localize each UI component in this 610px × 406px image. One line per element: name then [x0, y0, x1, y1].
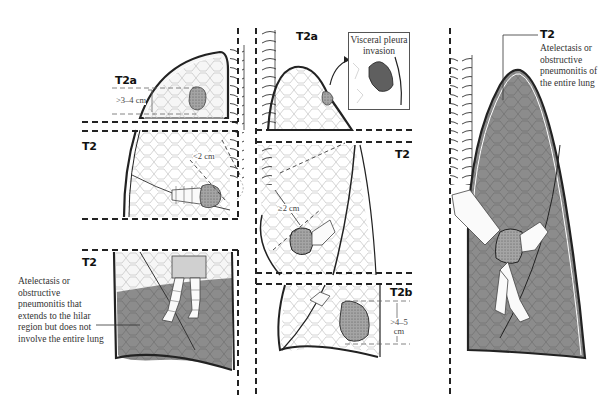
- staging-diagram: [0, 0, 610, 406]
- measurement-left-top: >3–4 cm: [116, 96, 146, 105]
- measurement-left-middle: <2 cm: [193, 152, 215, 161]
- stage-label-left-top: T2a: [115, 74, 137, 87]
- stage-label-center-top: T2a: [296, 30, 318, 43]
- measurement-unit: cm: [394, 326, 404, 336]
- trachea-segment: [450, 55, 472, 185]
- center-middle-lung: [258, 143, 376, 275]
- left-bottom-lung: [96, 252, 234, 370]
- left-middle-lung: [124, 130, 244, 217]
- note-left-bottom: Atelectasis or obstructive pneumonitis t…: [18, 276, 108, 345]
- trachea-segment: [230, 45, 244, 130]
- note-right: Atelectasis or obstructive pneumonitis o…: [540, 43, 610, 89]
- measurement-center-middle: ≥2 cm: [278, 204, 299, 213]
- measurement-center-bottom: >4–5 cm: [388, 318, 410, 336]
- stage-label-center-middle: T2: [395, 148, 410, 161]
- stage-label-center-bottom: T2b: [390, 286, 412, 299]
- left-lung-panel: [96, 45, 244, 370]
- stage-label-left-bottom: T2: [82, 256, 97, 269]
- pleura-invasion-detail-icon: [349, 33, 409, 109]
- stage-label-right: T2: [540, 28, 555, 41]
- visceral-pleura-callout: Visceral pleura invasion: [348, 32, 410, 110]
- center-top-lung-apex: [268, 56, 352, 130]
- stage-label-left-middle: T2: [82, 140, 97, 153]
